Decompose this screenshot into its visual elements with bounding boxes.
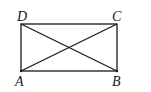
label-a: A (14, 74, 24, 89)
label-d: D (16, 9, 27, 24)
rectangle-diagram: D C A B (0, 0, 151, 92)
label-c: C (112, 9, 122, 24)
vertex-a-dot (20, 70, 22, 72)
figure-lines (21, 24, 117, 71)
label-b: B (112, 74, 121, 89)
vertex-b-dot (116, 70, 118, 72)
